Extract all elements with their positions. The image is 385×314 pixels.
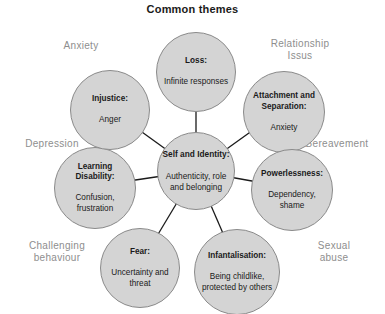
common-themes-diagram: Common themes Anxiety Relationship Issus… xyxy=(0,0,385,314)
node-powerlessness-subtext: Dependency, shame xyxy=(256,190,328,211)
node-learning-subtext: Confusion, frustration xyxy=(59,193,131,214)
node-infantalisation-subtext: Being childlike, protected by others xyxy=(199,272,275,293)
node-loss[interactable]: Loss: Infinite responses xyxy=(156,32,236,112)
outer-label-relationship-issus: Relationship Issus xyxy=(250,38,350,62)
outer-label-anxiety: Anxiety xyxy=(46,40,116,52)
node-attachment-heading: Attachment and Separation: xyxy=(248,91,320,112)
node-powerlessness[interactable]: Powerlessness: Dependency, shame xyxy=(251,149,333,231)
node-attachment-subtext: Anxiety xyxy=(248,123,320,134)
node-center-heading: Self and Identity: xyxy=(162,149,230,160)
node-attachment-and-separation[interactable]: Attachment and Separation: Anxiety xyxy=(243,71,325,153)
outer-label-challenging-behaviour: Challenging behaviour xyxy=(14,240,100,264)
node-loss-heading: Loss: xyxy=(164,56,228,67)
node-self-and-identity[interactable]: Self and Identity: Authenticity, role an… xyxy=(157,132,235,210)
node-fear-heading: Fear: xyxy=(105,247,175,258)
node-powerlessness-heading: Powerlessness: xyxy=(256,169,328,180)
node-learning-heading: Learning Disability: xyxy=(59,162,131,183)
node-center-subtext: Authenticity, role and belonging xyxy=(162,171,230,193)
node-center-text: Self and Identity: Authenticity, role an… xyxy=(158,138,234,204)
node-learning-text: Learning Disability: Confusion, frustrat… xyxy=(55,151,135,225)
node-injustice[interactable]: Injustice: Anger xyxy=(70,70,150,150)
node-infantalisation[interactable]: Infantalisation: Being childlike, protec… xyxy=(194,229,280,314)
node-fear-text: Fear: Uncertainty and threat xyxy=(101,237,179,300)
node-injustice-subtext: Anger xyxy=(92,115,128,126)
node-loss-subtext: Infinite responses xyxy=(164,77,228,88)
node-injustice-heading: Injustice: xyxy=(92,94,128,105)
node-infantalisation-heading: Infantalisation: xyxy=(199,251,275,262)
node-infantalisation-text: Infantalisation: Being childlike, protec… xyxy=(195,241,279,304)
node-powerlessness-text: Powerlessness: Dependency, shame xyxy=(252,159,332,222)
node-learning-disability[interactable]: Learning Disability: Confusion, frustrat… xyxy=(54,147,136,229)
node-injustice-text: Injustice: Anger xyxy=(88,84,132,137)
node-fear[interactable]: Fear: Uncertainty and threat xyxy=(100,228,180,308)
node-fear-subtext: Uncertainty and threat xyxy=(105,268,175,289)
node-attachment-text: Attachment and Separation: Anxiety xyxy=(244,81,324,144)
outer-label-sexual-abuse: Sexual abuse xyxy=(300,240,368,264)
node-loss-text: Loss: Infinite responses xyxy=(160,46,232,99)
